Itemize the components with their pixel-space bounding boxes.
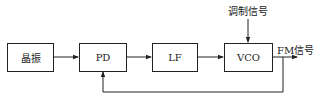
crystal-oscillator-block: 晶振 <box>7 43 54 72</box>
loop-filter-block: LF <box>152 43 198 72</box>
loop-filter-label: LF <box>168 52 182 63</box>
vco-block: VCO <box>224 43 273 72</box>
phase-detector-label: PD <box>96 52 111 63</box>
crystal-oscillator-label: 晶振 <box>21 50 41 65</box>
vco-label: VCO <box>237 52 260 63</box>
phase-detector-block: PD <box>79 43 127 72</box>
modulation-signal-label: 调制信号 <box>228 3 268 18</box>
fm-signal-label: FM信号 <box>277 42 314 57</box>
